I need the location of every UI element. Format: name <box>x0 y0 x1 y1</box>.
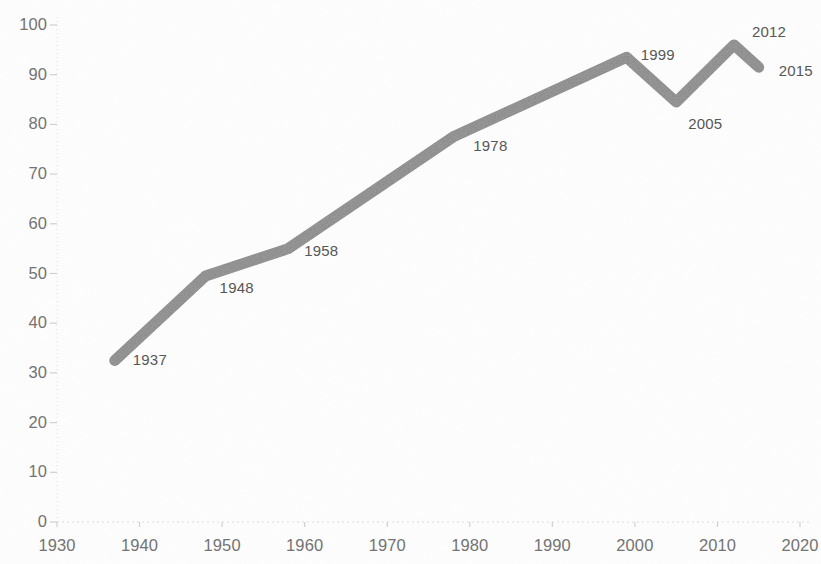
y-tick-label: 40 <box>28 313 47 332</box>
y-tick-label: 90 <box>28 65 47 84</box>
data-point-label: 1937 <box>133 351 167 368</box>
y-tick-label: 10 <box>28 462 47 481</box>
x-tick-label: 1990 <box>512 536 592 555</box>
data-point-label: 1948 <box>220 279 254 296</box>
x-tick-label: 2010 <box>677 536 757 555</box>
x-tick-label: 2000 <box>595 536 675 555</box>
data-series-line <box>115 45 759 361</box>
line-chart-canvas <box>0 0 821 564</box>
x-tick-label: 2020 <box>760 536 821 555</box>
x-tick-label: 1980 <box>430 536 510 555</box>
x-tick-label: 1970 <box>347 536 427 555</box>
data-point-label: 1958 <box>304 242 338 259</box>
x-tick-label: 1940 <box>100 536 180 555</box>
data-point-label: 1978 <box>473 137 507 154</box>
y-tick-label: 50 <box>28 264 47 283</box>
y-tick-label: 80 <box>28 114 47 133</box>
chart-container: 0102030405060708090100 19301940195019601… <box>0 0 821 564</box>
y-axis <box>50 17 57 522</box>
x-axis <box>57 522 811 527</box>
y-tick-label: 20 <box>28 413 47 432</box>
data-point-label: 2015 <box>779 62 813 79</box>
x-tick-label: 1930 <box>17 536 97 555</box>
data-point-label: 2005 <box>688 115 722 132</box>
data-point-label: 1999 <box>641 46 675 63</box>
x-tick-label: 1950 <box>182 536 262 555</box>
y-tick-label: 100 <box>19 15 47 34</box>
y-tick-label: 0 <box>38 512 47 531</box>
y-tick-label: 70 <box>28 164 47 183</box>
y-tick-label: 30 <box>28 363 47 382</box>
y-tick-label: 60 <box>28 214 47 233</box>
data-point-label: 2012 <box>752 23 786 40</box>
x-tick-label: 1960 <box>265 536 345 555</box>
